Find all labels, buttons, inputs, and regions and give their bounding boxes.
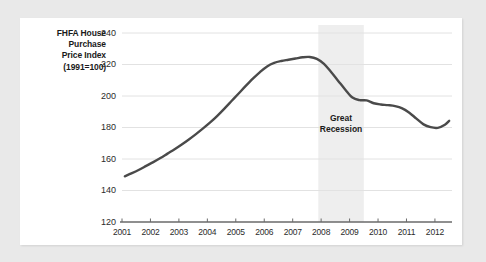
x-tick-label: 2008 bbox=[306, 228, 336, 237]
x-tick-label: 2009 bbox=[335, 228, 365, 237]
line-chart bbox=[0, 0, 486, 262]
x-tick-label: 2002 bbox=[135, 228, 165, 237]
x-tick-label: 2005 bbox=[221, 228, 251, 237]
x-tick-label: 2004 bbox=[192, 228, 222, 237]
gridlines bbox=[122, 33, 452, 191]
recession-annotation-label: GreatRecession bbox=[306, 113, 376, 135]
y-tick-label: 180 bbox=[90, 123, 116, 132]
x-tick-label: 2007 bbox=[278, 228, 308, 237]
series-line-fhfa-index bbox=[125, 57, 449, 176]
chart-page: FHFA House Purchase Price Index (1991=10… bbox=[0, 0, 486, 262]
y-tick-label: 220 bbox=[90, 60, 116, 69]
x-tick-label: 2012 bbox=[420, 228, 450, 237]
x-tick-label: 2010 bbox=[363, 228, 393, 237]
x-tick-label: 2003 bbox=[164, 228, 194, 237]
y-tick-label: 120 bbox=[90, 218, 116, 227]
data-line bbox=[125, 57, 449, 176]
x-tick-label: 2006 bbox=[249, 228, 279, 237]
x-tick-label: 2001 bbox=[107, 228, 137, 237]
recession-annotation-line-2: Recession bbox=[306, 124, 376, 135]
recession-annotation-line-1: Great bbox=[306, 113, 376, 124]
y-tick-label: 140 bbox=[90, 186, 116, 195]
y-tick-label: 160 bbox=[90, 155, 116, 164]
x-tick-label: 2011 bbox=[391, 228, 421, 237]
y-tick-label: 200 bbox=[90, 92, 116, 101]
y-tick-label: 240 bbox=[90, 29, 116, 38]
